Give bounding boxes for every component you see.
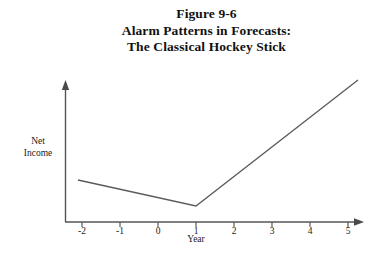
chart-canvas: [0, 0, 377, 264]
y-axis-title-line-1: Net: [12, 136, 64, 148]
x-axis-arrow-icon: [354, 218, 364, 226]
x-tick-label-0: 0: [148, 226, 168, 236]
figure-page: Figure 9-6 Alarm Patterns in Forecasts: …: [0, 0, 377, 264]
y-axis-title: NetIncome: [12, 136, 64, 159]
x-tick-label-2: 2: [224, 226, 244, 236]
x-tick-label-4: 4: [300, 226, 320, 236]
x-tick-label-5: 5: [338, 226, 358, 236]
x-axis: [65, 218, 364, 226]
y-axis-title-line-2: Income: [12, 148, 64, 160]
x-axis-title: Year: [176, 234, 216, 244]
x-tick-label-neg2: -2: [72, 226, 92, 236]
y-axis-arrow-icon: [62, 80, 69, 90]
data-series-net-income: [78, 80, 358, 206]
x-tick-label-3: 3: [262, 226, 282, 236]
x-tick-label-neg1: -1: [110, 226, 130, 236]
chart-svg: [0, 0, 377, 264]
